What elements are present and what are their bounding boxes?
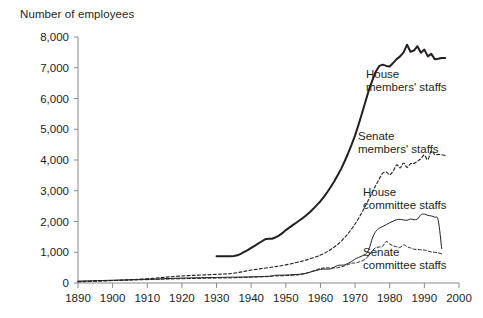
- x-axis-tick-marks: [78, 283, 459, 288]
- x-tick-label: 1940: [238, 292, 264, 304]
- x-tick-label: 1990: [412, 292, 438, 304]
- y-axis-tick-marks: [74, 37, 78, 283]
- y-tick-label: 4,000: [40, 154, 69, 166]
- x-axis-tick-labels: 1890190019101920193019401950196019701980…: [65, 292, 472, 304]
- series-label-1: Senatemembers' staffs: [358, 130, 439, 155]
- x-tick-label: 1910: [134, 292, 160, 304]
- y-tick-label: 1,000: [40, 246, 69, 258]
- series-label-0: Housemembers' staffs: [366, 68, 447, 93]
- x-tick-label: 1920: [169, 292, 195, 304]
- series-label-2: Housecommittee staffs: [363, 186, 447, 211]
- y-tick-label: 7,000: [40, 62, 69, 74]
- y-tick-label: 2,000: [40, 216, 69, 228]
- y-tick-label: 0: [63, 277, 69, 289]
- x-tick-label: 1930: [204, 292, 230, 304]
- y-tick-label: 8,000: [40, 31, 69, 43]
- y-tick-label: 3,000: [40, 185, 69, 197]
- line-chart-plot: 01,0002,0003,0004,0005,0006,0007,0008,00…: [0, 0, 483, 318]
- y-axis-tick-labels: 01,0002,0003,0004,0005,0006,0007,0008,00…: [40, 31, 69, 289]
- x-tick-label: 1970: [342, 292, 368, 304]
- x-tick-label: 1950: [273, 292, 299, 304]
- y-tick-label: 5,000: [40, 123, 69, 135]
- x-tick-label: 1960: [308, 292, 334, 304]
- x-tick-label: 1890: [65, 292, 91, 304]
- y-tick-label: 6,000: [40, 93, 69, 105]
- x-tick-label: 2000: [446, 292, 472, 304]
- x-tick-label: 1900: [100, 292, 126, 304]
- x-tick-label: 1980: [377, 292, 403, 304]
- chart-page: Number of employees 01,0002,0003,0004,00…: [0, 0, 483, 318]
- series-label-3: Senatecommittee staffs: [363, 246, 447, 271]
